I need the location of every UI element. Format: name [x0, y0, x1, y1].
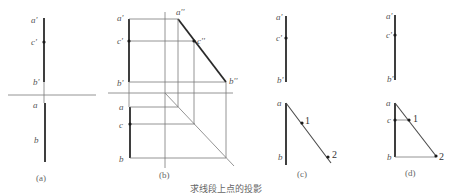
label-a: a: [33, 100, 38, 110]
point-c: [393, 118, 396, 121]
label-a-prime: a': [31, 15, 39, 25]
label-c-prime: c': [386, 30, 393, 40]
panel-c: a' c' b' a b 1 2 (c): [276, 12, 337, 179]
label-b-prime: b': [277, 75, 285, 85]
label-a-dprime: a'': [176, 7, 185, 17]
panel-c-caption: (c): [297, 169, 307, 179]
label-b-dprime: b'': [229, 76, 238, 86]
label-a: a: [119, 102, 124, 112]
point-2: [326, 155, 329, 158]
point-1: [407, 118, 410, 121]
auxiliary-line: [395, 103, 436, 156]
panel-a: a' c' b' a b (a): [8, 15, 96, 183]
panel-b-caption: (b): [159, 170, 170, 180]
figure-caption: 求线段上点的投影: [190, 183, 262, 193]
projection-figure: a' c' b' a b (a) a' c' b' a'' c'' b': [0, 0, 452, 193]
label-c: c: [119, 120, 123, 130]
label-c-prime: c': [276, 33, 283, 43]
label-b: b: [34, 135, 39, 145]
label-a: a: [277, 98, 282, 108]
label-2: 2: [332, 149, 337, 160]
miter-line-45: [165, 93, 234, 166]
panel-d: a' c' b' a c b 1 2 (d): [386, 11, 444, 178]
label-a-prime: a': [276, 12, 284, 22]
label-b-prime: b': [387, 74, 395, 84]
point-2: [434, 154, 437, 157]
point-c: [128, 122, 131, 125]
point-1: [300, 121, 303, 124]
label-2: 2: [439, 151, 444, 162]
label-b-prime: b': [33, 77, 41, 87]
label-c-dprime: c'': [197, 36, 206, 46]
side-view-line: [178, 19, 226, 82]
label-1: 1: [305, 115, 310, 126]
point-c-prime: [393, 33, 396, 36]
auxiliary-line: [286, 103, 331, 163]
point-c-dprime: [192, 39, 195, 42]
label-c: c: [387, 115, 391, 125]
label-c-prime: c': [117, 36, 124, 46]
label-a-prime: a': [117, 13, 125, 23]
panel-d-caption: (d): [405, 168, 416, 178]
label-c-prime: c': [31, 37, 38, 47]
point-c-prime: [284, 36, 287, 39]
label-b: b: [119, 154, 124, 164]
label-1: 1: [413, 113, 418, 124]
label-a-prime: a': [386, 11, 394, 21]
label-b: b: [278, 152, 283, 162]
panel-a-caption: (a): [36, 173, 46, 183]
label-b-prime: b': [117, 78, 125, 88]
label-a: a: [386, 98, 391, 108]
label-b: b: [387, 152, 392, 162]
point-c-prime: [127, 39, 130, 42]
panel-b: a' c' b' a'' c'' b'' a c b (b): [108, 7, 238, 180]
point-c-prime: [42, 40, 45, 43]
